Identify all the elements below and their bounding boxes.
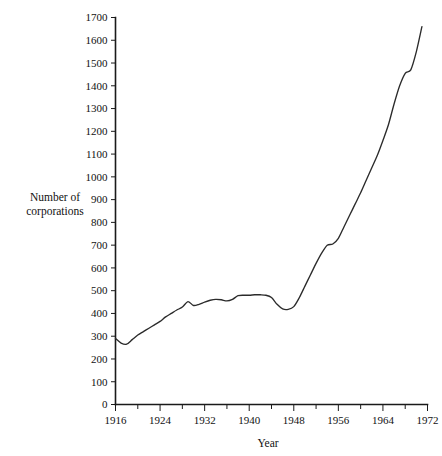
x-axis-tick-label: 1972 xyxy=(417,414,439,426)
y-axis-tick-label: 1600 xyxy=(86,34,109,46)
y-axis-tick-label: 0 xyxy=(102,398,108,410)
x-axis-tick-label: 1956 xyxy=(327,414,350,426)
y-axis-tick-label: 200 xyxy=(91,353,108,365)
x-axis-tick-label: 1964 xyxy=(372,414,395,426)
y-axis-title-line-2: corporations xyxy=(26,205,84,218)
x-axis-tick-label: 1932 xyxy=(194,414,216,426)
y-axis-tick-label: 1300 xyxy=(86,102,109,114)
y-axis-title-line-1: Number of xyxy=(30,191,80,203)
chart-figure: 0100200300400500600700800900100011001200… xyxy=(0,0,442,456)
y-axis-tick-label: 1000 xyxy=(86,171,109,183)
y-axis-tick-label: 900 xyxy=(91,193,108,205)
x-axis-tick-label: 1940 xyxy=(238,414,261,426)
y-axis-tick-label: 700 xyxy=(91,239,108,251)
y-axis-tick-label: 300 xyxy=(91,330,108,342)
y-axis-tick-label: 1700 xyxy=(86,11,109,23)
y-axis-tick-label: 1100 xyxy=(86,148,108,160)
y-axis-tick-label: 500 xyxy=(91,284,108,296)
x-axis-title: Year xyxy=(257,437,278,449)
y-axis-tick-label: 400 xyxy=(91,307,108,319)
y-axis-tick-label: 800 xyxy=(91,216,108,228)
x-axis-tick-label: 1916 xyxy=(105,414,128,426)
y-axis-tick-label: 1400 xyxy=(86,80,109,92)
x-axis-tick-label: 1948 xyxy=(283,414,306,426)
y-axis-tick-label: 1200 xyxy=(86,125,109,137)
y-axis-tick-label: 100 xyxy=(91,376,108,388)
chart-background xyxy=(0,0,442,456)
y-axis-tick-label: 1500 xyxy=(86,57,109,69)
x-axis-tick-label: 1924 xyxy=(149,414,172,426)
line-chart: 0100200300400500600700800900100011001200… xyxy=(0,0,442,456)
y-axis-tick-label: 600 xyxy=(91,262,108,274)
